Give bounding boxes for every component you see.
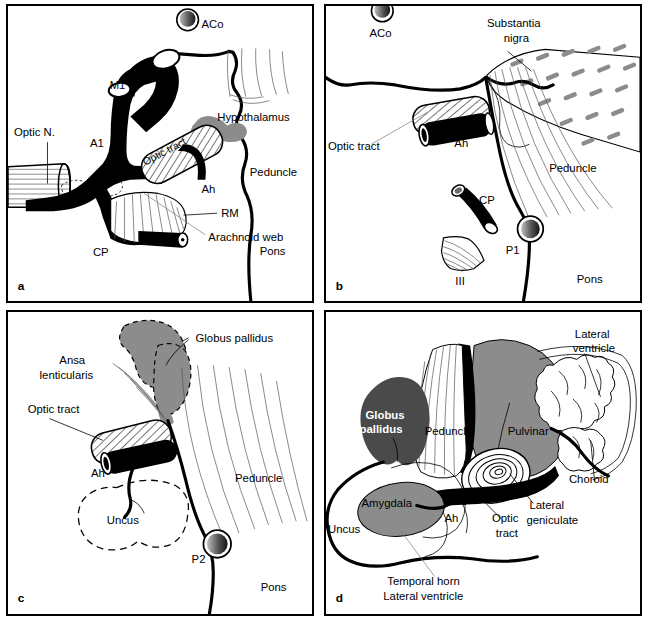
label-uncus: Uncus	[107, 514, 139, 526]
aco-vessel	[177, 9, 199, 31]
p2-vessel-shape	[203, 530, 231, 558]
label-peduncle: Peduncle	[235, 472, 282, 484]
aco-vessel	[371, 6, 393, 22]
substantia-nigra-shape	[487, 43, 640, 152]
label-amygdala: Amygdala	[362, 497, 413, 509]
label-hypothalamus: Hypothalamus	[217, 111, 290, 123]
label-iii: III	[455, 275, 464, 287]
label-globus-line1: Globus	[365, 409, 404, 421]
label-optic-n: Optic N.	[14, 126, 55, 138]
label-substantia-nigra-line1: Substantia	[487, 17, 541, 29]
label-uncus: Uncus	[328, 523, 360, 535]
label-p1: P1	[506, 244, 520, 256]
leader-rm	[184, 213, 218, 215]
label-cp: CP	[479, 194, 495, 206]
label-pons: Pons	[260, 245, 286, 257]
label-ah: Ah	[201, 183, 215, 195]
anatomical-figure: ACo M1 A1 Optic N. Optic tract Hypothala…	[0, 0, 648, 623]
label-ansa-line1: Ansa	[59, 354, 86, 366]
label-arachnoid-web: Arachnoid web	[208, 231, 283, 243]
label-globus-pallidus: Globus pallidus	[196, 332, 274, 344]
label-peduncle: Peduncle	[425, 425, 472, 437]
label-lateral-ventricle-line2: ventricle	[573, 342, 615, 354]
label-globus-line2: pallidus	[360, 423, 403, 435]
label-lateral-ventricle-line1: Lateral	[575, 328, 610, 340]
label-lateral-geniculate-line2: geniculate	[526, 514, 578, 526]
leader-optic-tract	[49, 419, 102, 441]
third-nerve-shape	[442, 237, 484, 272]
label-m1: M1	[110, 79, 126, 91]
label-a1: A1	[90, 137, 104, 149]
label-temporal-lateral-ventricle: Lateral ventricle	[383, 590, 463, 602]
label-substantia-nigra-line2: nigra	[504, 32, 530, 44]
label-pons: Pons	[261, 581, 287, 593]
label-ah: Ah	[444, 512, 458, 524]
label-choroid: Choroid	[569, 473, 609, 485]
label-optic-tract-line1: Optic	[492, 512, 519, 524]
label-peduncle: Peduncle	[250, 166, 297, 178]
panel-b: ACo Substantia nigra Optic tract Ah Pedu…	[324, 4, 642, 303]
panel-letter-c: c	[18, 591, 25, 605]
label-optic-tract: Optic tract	[28, 403, 81, 415]
panel-c: Globus pallidus Ansa lenticularis Optic …	[6, 310, 314, 616]
ah-branch	[124, 470, 132, 517]
label-p2: P2	[192, 553, 206, 565]
label-temporal-horn: Temporal horn	[387, 575, 460, 587]
panel-letter-a: a	[18, 279, 25, 293]
label-ah: Ah	[91, 467, 105, 479]
label-optic-tract: Optic tract	[328, 140, 381, 152]
label-optic-tract-line2: tract	[496, 527, 519, 539]
label-ansa-line2: lenticularis	[40, 369, 94, 381]
label-pulvinar: Pulvinar	[508, 425, 549, 437]
panel-d: Globus pallidus Peduncle Pulvinar Latera…	[324, 310, 642, 616]
label-lateral-geniculate-line1: Lateral	[529, 499, 564, 511]
cp-vessel-shape	[450, 183, 500, 236]
panel-letter-d: d	[336, 591, 343, 605]
globus-pallidus-shape	[360, 377, 429, 465]
label-ah: Ah	[454, 137, 468, 149]
label-aco: ACo	[201, 18, 223, 30]
label-peduncle: Peduncle	[549, 162, 596, 174]
cp-vessel-shape	[138, 231, 187, 248]
globus-pallidus-shape	[120, 320, 191, 428]
label-cp: CP	[93, 246, 109, 258]
label-pons: Pons	[577, 273, 603, 285]
p1-vessel-shape	[518, 216, 544, 242]
panel-letter-b: b	[336, 279, 343, 293]
panel-a: ACo M1 A1 Optic N. Optic tract Hypothala…	[6, 4, 314, 303]
label-aco: ACo	[369, 27, 391, 39]
label-rm: RM	[221, 207, 239, 219]
